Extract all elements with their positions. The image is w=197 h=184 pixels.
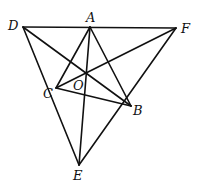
- label-O: O: [73, 78, 84, 93]
- label-D: D: [7, 18, 19, 33]
- label-C: C: [43, 86, 53, 101]
- label-B: B: [132, 103, 143, 118]
- geometry-diagram: D A F C O B E: [0, 0, 197, 184]
- label-A: A: [85, 10, 95, 25]
- label-E: E: [72, 168, 83, 183]
- label-F: F: [180, 21, 191, 36]
- segment-DF: [23, 27, 176, 28]
- segment-AB: [90, 27, 131, 106]
